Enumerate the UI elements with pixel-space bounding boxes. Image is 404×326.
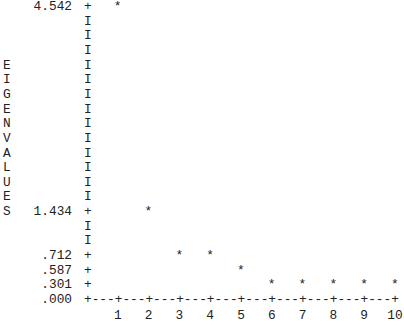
y-axis-bar: I [84, 190, 92, 205]
y-axis-label-letter: N [3, 117, 11, 132]
y-axis-bar: I [84, 220, 92, 235]
y-axis-bar: I [84, 59, 92, 74]
y-axis-bar: I [84, 176, 92, 191]
y-axis-label-letter: S [3, 205, 11, 220]
y-tick-label: .587 [26, 264, 72, 279]
y-axis-bar: I [84, 117, 92, 132]
y-tick-mark: + [84, 278, 92, 293]
y-axis-bar: I [84, 29, 92, 44]
y-tick-label: .301 [26, 278, 72, 293]
y-axis-label-letter: G [3, 88, 11, 103]
y-axis-label-letter: L [3, 161, 11, 176]
data-point-marker: * [391, 278, 399, 293]
y-axis-bar: I [84, 147, 92, 162]
y-axis-label-letter: I [3, 73, 11, 88]
x-tick-label: 3 [169, 309, 189, 324]
x-tick-label: 7 [293, 309, 313, 324]
data-point-marker: * [237, 264, 245, 279]
x-tick-label: 6 [262, 309, 282, 324]
data-point-marker: * [175, 249, 183, 264]
x-tick-label: 5 [231, 309, 251, 324]
y-axis-bar: I [84, 103, 92, 118]
data-point-marker: * [206, 249, 214, 264]
y-tick-label: .712 [26, 249, 72, 264]
y-axis-bar: I [84, 44, 92, 59]
y-axis-bar: I [84, 132, 92, 147]
x-tick-label: 10 [385, 309, 404, 324]
data-point-marker: * [145, 205, 153, 220]
y-tick-mark: + [84, 264, 92, 279]
y-tick-mark: + [84, 0, 92, 15]
y-tick-mark: + [84, 249, 92, 264]
data-point-marker: * [329, 278, 337, 293]
y-axis-label-letter: U [3, 176, 11, 191]
y-axis-bar: I [84, 73, 92, 88]
y-axis-label-letter: E [3, 59, 11, 74]
y-axis-label-letter: V [3, 132, 11, 147]
y-tick-label: 4.542 [26, 0, 72, 15]
x-tick-label: 9 [354, 309, 374, 324]
y-tick-mark: + [84, 205, 92, 220]
data-point-marker: * [114, 0, 122, 15]
data-point-marker: * [268, 278, 276, 293]
y-axis-bar: I [84, 161, 92, 176]
y-axis-bar: I [84, 234, 92, 249]
data-point-marker: * [360, 278, 368, 293]
y-tick-label: 1.434 [26, 205, 72, 220]
y-axis-bar: I [84, 88, 92, 103]
y-axis-bar: I [84, 15, 92, 30]
y-axis-label-letter: E [3, 190, 11, 205]
x-axis-line: +---+---+---+---+---+---+---+---+---+---… [84, 293, 399, 308]
x-tick-label: 8 [323, 309, 343, 324]
data-point-marker: * [299, 278, 307, 293]
x-tick-label: 2 [139, 309, 159, 324]
y-tick-label: .000 [26, 293, 72, 308]
x-tick-label: 4 [200, 309, 220, 324]
y-axis-label-letter: E [3, 103, 11, 118]
y-axis-label-letter: A [3, 147, 11, 162]
x-tick-label: 1 [108, 309, 128, 324]
